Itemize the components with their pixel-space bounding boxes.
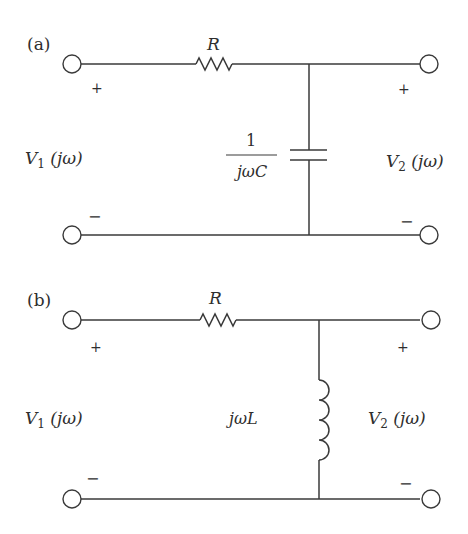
- polarity-b-in-plus: +: [90, 339, 102, 355]
- resistor-b-icon: [200, 314, 236, 326]
- polarity-b-in-minus: −: [86, 469, 99, 488]
- capacitor-a-impedance: 1 jωC: [226, 131, 277, 181]
- voltage-b-output-label: V2 (jω): [368, 408, 426, 431]
- voltage-a-output-label: V2 (jω): [386, 151, 444, 174]
- circuit-a: (a) R + − + − V1 (jω) V2 (jω) 1: [25, 34, 444, 244]
- resistor-a-label: R: [206, 34, 220, 54]
- polarity-a-out-plus: +: [398, 81, 410, 97]
- voltage-b-input-label: V1 (jω): [25, 408, 83, 431]
- resistor-b-label: R: [208, 288, 222, 308]
- circuit-b-label: (b): [27, 290, 51, 310]
- terminal-a-in-plus-icon: [63, 55, 81, 73]
- polarity-b-out-minus: −: [399, 474, 412, 493]
- circuit-b: (b) R + − + − V1 (jω) V2 (jω) jωL: [25, 288, 440, 508]
- terminal-a-out-minus-icon: [420, 226, 438, 244]
- impedance-a-denominator: jωC: [234, 162, 267, 181]
- terminal-b-in-plus-icon: [63, 311, 81, 329]
- inductor-b-impedance: jωL: [226, 409, 258, 428]
- polarity-a-in-plus: +: [91, 80, 103, 96]
- impedance-a-numerator: 1: [246, 131, 256, 150]
- circuit-a-label: (a): [27, 34, 50, 54]
- voltage-a-input-label: V1 (jω): [25, 148, 83, 171]
- inductor-b-icon: [319, 380, 329, 460]
- polarity-b-out-plus: +: [397, 339, 409, 355]
- terminal-b-in-minus-icon: [63, 490, 81, 508]
- circuit-diagram: (a) R + − + − V1 (jω) V2 (jω) 1: [0, 0, 468, 534]
- terminal-a-out-plus-icon: [420, 55, 438, 73]
- terminal-a-in-minus-icon: [63, 226, 81, 244]
- resistor-a-icon: [196, 58, 232, 70]
- polarity-a-out-minus: −: [400, 212, 413, 231]
- terminal-b-out-plus-icon: [422, 311, 440, 329]
- polarity-a-in-minus: −: [88, 207, 101, 226]
- terminal-b-out-minus-icon: [422, 490, 440, 508]
